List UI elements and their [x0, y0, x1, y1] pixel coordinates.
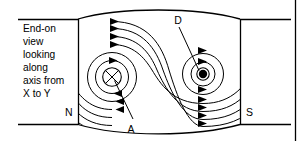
label-d: D [174, 14, 182, 26]
label-south-pole: S [246, 106, 253, 118]
caption-line-2: view [23, 36, 44, 47]
caption-line-1: End-on [23, 23, 56, 34]
label-a: A [127, 123, 134, 135]
caption-line-3: looking [23, 49, 56, 60]
field-line-s-2 [112, 37, 260, 112]
label-a-leader [115, 81, 134, 120]
magnetic-field-diagram: A D N S End-on view looking along axis f… [0, 0, 305, 141]
label-north-pole: N [65, 106, 73, 118]
label-d-leader [179, 27, 199, 71]
magnet-body-outline [78, 10, 240, 134]
field-arrows-left [109, 18, 119, 64]
caption-line-4: along [23, 62, 48, 73]
field-arrows-right [198, 47, 207, 127]
caption-line-5: axis from [23, 75, 64, 86]
caption-block: End-on view looking along axis from X to… [23, 23, 64, 99]
caption-line-6: X to Y [23, 88, 51, 99]
left-conductor-cross-symbol [103, 68, 122, 87]
figure-canvas: A D N S End-on view looking along axis f… [0, 0, 305, 141]
